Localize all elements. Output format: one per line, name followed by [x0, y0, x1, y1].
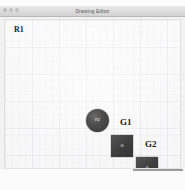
drawing-canvas[interactable]: R1 R2 G1 G G2 G [4, 19, 181, 169]
shape-circle-robot-r2-label: R2 [86, 118, 109, 122]
window-bottom-area [0, 169, 185, 190]
region-label-r1: R1 [14, 26, 24, 34]
title-bar[interactable]: Drawing Editor [0, 6, 185, 17]
application-window: Drawing Editor R1 R2 G1 G G2 G [0, 0, 185, 190]
annotation-label-g1: G1 [120, 118, 132, 127]
window-title: Drawing Editor [0, 7, 185, 16]
annotation-label-g2: G2 [145, 140, 157, 149]
shape-square-goal-1-label: G [111, 144, 133, 148]
bottom-divider [133, 169, 183, 171]
